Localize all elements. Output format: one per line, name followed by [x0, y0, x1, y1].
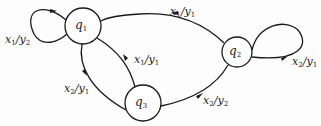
state-q1-name: q [75, 18, 83, 32]
state-q2-sub: 2 [237, 51, 241, 59]
transition-label-q2-self: x2/y1 [292, 56, 317, 69]
diagram-edges [0, 0, 321, 126]
state-q2-name: q [229, 44, 237, 58]
edge-q2-self [252, 24, 303, 58]
transition-label-q2-q1: x1/y1 [170, 6, 195, 19]
transition-label-q3-q1: x1/y1 [134, 54, 159, 67]
edge-q1-self [31, 10, 67, 43]
state-diagram: q1 q2 q3 x1/y2 x1/y1 x1/y1 x2/y1 x2/y2 x… [0, 0, 321, 126]
transition-label-q1-self: x1/y2 [5, 34, 30, 47]
transition-label-q1-q3: x2/y1 [64, 83, 89, 96]
arrow-q3-q1 [123, 54, 128, 61]
state-q3-sub: 3 [143, 102, 147, 110]
edge-q3-q1 [97, 38, 135, 87]
transition-label-q3-q2: x2/y2 [203, 95, 228, 108]
state-q1-sub: 1 [83, 25, 87, 33]
edge-q1-q3 [81, 44, 126, 110]
edge-q2-q1 [101, 14, 224, 43]
state-q3-label: q3 [135, 96, 147, 110]
state-q1-label: q1 [75, 19, 87, 33]
state-q2-label: q2 [229, 45, 241, 59]
state-q3-name: q [135, 95, 143, 109]
